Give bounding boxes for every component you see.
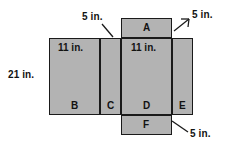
leader-line-top-right bbox=[174, 19, 189, 31]
leader-lines-group bbox=[0, 0, 226, 145]
net-diagram-canvas: A B C D E F 11 in. 11 in. 21 in. 5 in. 5… bbox=[0, 0, 226, 145]
leader-line-bottom-right bbox=[172, 121, 188, 132]
leader-line-top-left bbox=[102, 24, 113, 37]
